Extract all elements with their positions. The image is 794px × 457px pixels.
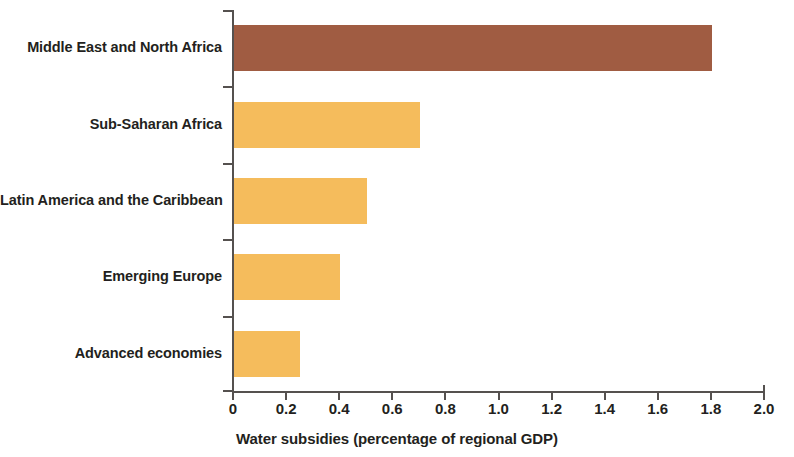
x-axis-tick [285,393,287,400]
category-label: Advanced economies [0,346,222,361]
y-axis-tick [223,390,232,392]
x-axis-tick [604,393,606,400]
category-label: Latin America and the Caribbean [0,193,222,208]
bar [234,178,367,224]
x-axis-tick-label: 1.2 [522,401,582,418]
x-axis-tick [232,385,234,400]
x-axis-tick [391,393,393,400]
category-label: Middle East and North Africa [0,40,222,55]
x-axis-tick [338,393,340,400]
bar-chart-figure: Middle East and North AfricaSub-Saharan … [0,0,794,457]
x-axis-tick-label: 1.6 [628,401,688,418]
y-axis-tick [223,10,232,12]
x-axis-tick-label: 1.0 [469,401,529,418]
y-axis-tick [223,239,232,241]
x-axis-tick-label: 1.4 [575,401,635,418]
x-axis-tick-label: 0.6 [362,401,422,418]
x-axis-tick [551,393,553,400]
x-axis-tick-label: 0.8 [415,401,475,418]
bar [234,331,300,377]
x-axis-tick-label: 0.4 [309,401,369,418]
y-axis-tick [223,86,232,88]
x-axis-tick-label: 2.0 [734,401,794,418]
bar [234,254,340,300]
category-label: Emerging Europe [0,269,222,284]
y-axis-tick [223,163,232,165]
x-axis-tick-label: 1.8 [681,401,741,418]
x-axis-tick-label: 0 [203,401,263,418]
x-axis-tick [763,385,765,400]
plot-area [232,10,763,392]
category-label: Sub-Saharan Africa [0,117,222,132]
x-axis-tick [498,393,500,400]
y-axis-tick [223,316,232,318]
x-axis-tick [710,393,712,400]
x-axis-tick-label: 0.2 [256,401,316,418]
x-axis-tick [657,393,659,400]
bar [234,102,420,148]
x-axis-title: Water subsidies (percentage of regional … [0,430,794,447]
category-axis-labels: Middle East and North AfricaSub-Saharan … [0,10,222,392]
x-axis-tick [444,393,446,400]
bar [234,25,712,71]
